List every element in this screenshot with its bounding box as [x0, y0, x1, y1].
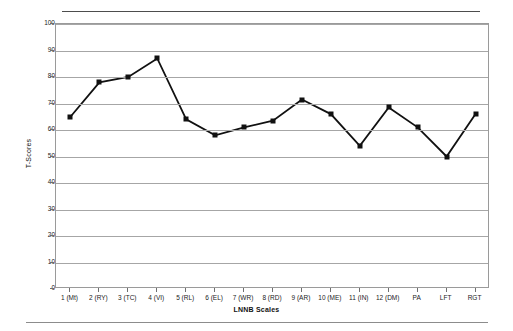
data-point-marker	[126, 75, 131, 80]
x-tick-mark	[446, 288, 447, 292]
data-point-marker	[299, 97, 304, 102]
y-tick-label: 20	[5, 232, 55, 239]
x-tick-mark	[185, 288, 186, 292]
x-tick-label: 5 (RL)	[176, 294, 194, 301]
x-tick-label: 4 (VI)	[148, 294, 164, 301]
x-tick-label: 6 (EL)	[205, 294, 223, 301]
gridline	[56, 236, 488, 237]
y-tick-mark	[50, 288, 54, 289]
x-tick-mark	[127, 288, 128, 292]
bottom-divider	[26, 322, 488, 323]
x-tick-mark	[214, 288, 215, 292]
y-tick-label: 50	[5, 153, 55, 160]
x-tick-label: 12 (DM)	[376, 294, 399, 301]
chart-page: T-Scores 1009080706050403020100 LNNB Sca…	[0, 0, 513, 331]
y-tick-mark	[50, 235, 54, 236]
x-tick-label: 7 (WR)	[233, 294, 254, 301]
data-point-marker	[68, 114, 73, 119]
x-tick-mark	[156, 288, 157, 292]
top-divider	[62, 11, 480, 12]
data-point-marker	[271, 118, 276, 123]
gridline	[56, 263, 488, 264]
y-tick-label: 30	[5, 206, 55, 213]
gridline	[56, 183, 488, 184]
x-tick-mark	[359, 288, 360, 292]
plot-area	[55, 23, 489, 288]
x-tick-mark	[98, 288, 99, 292]
x-tick-mark	[417, 288, 418, 292]
x-tick-label: 10 (ME)	[318, 294, 341, 301]
y-tick-label: 70	[5, 100, 55, 107]
y-tick-mark	[50, 182, 54, 183]
gridline	[56, 51, 488, 52]
series-line	[70, 58, 475, 156]
data-point-marker	[213, 133, 218, 138]
x-tick-mark	[69, 288, 70, 292]
x-tick-mark	[388, 288, 389, 292]
y-tick-mark	[50, 103, 54, 104]
y-tick-label: 60	[5, 126, 55, 133]
y-tick-mark	[50, 209, 54, 210]
x-tick-mark	[243, 288, 244, 292]
x-tick-mark	[301, 288, 302, 292]
y-tick-label: 80	[5, 73, 55, 80]
x-tick-label: 2 (RY)	[89, 294, 108, 301]
y-tick-label: 90	[5, 47, 55, 54]
y-tick-mark	[50, 50, 54, 51]
y-tick-mark	[50, 129, 54, 130]
x-tick-label: LFT	[440, 294, 452, 301]
gridline	[56, 77, 488, 78]
x-tick-mark	[272, 288, 273, 292]
data-point-marker	[184, 117, 189, 122]
x-tick-mark	[330, 288, 331, 292]
gridline	[56, 24, 488, 25]
y-axis: T-Scores 1009080706050403020100	[0, 0, 55, 331]
y-tick-label: 40	[5, 179, 55, 186]
data-point-marker	[242, 125, 247, 130]
x-tick-label: 1 (Mt)	[61, 294, 78, 301]
y-tick-label: 0	[5, 285, 55, 292]
data-point-marker	[97, 80, 102, 85]
y-tick-mark	[50, 262, 54, 263]
x-tick-label: 8 (RD)	[262, 294, 281, 301]
data-point-marker	[473, 112, 478, 117]
x-tick-label: 3 (TC)	[118, 294, 136, 301]
y-tick-label: 100	[5, 20, 55, 27]
x-tick-mark	[475, 288, 476, 292]
gridline	[56, 157, 488, 158]
x-tick-label: 9 (AR)	[292, 294, 311, 301]
x-tick-label: 11 (IN)	[349, 294, 368, 301]
y-tick-mark	[50, 156, 54, 157]
data-point-marker	[357, 143, 362, 148]
data-point-marker	[444, 154, 449, 159]
y-tick-label: 10	[5, 259, 55, 266]
data-point-marker	[415, 125, 420, 130]
data-point-marker	[155, 56, 160, 61]
y-tick-mark	[50, 76, 54, 77]
data-point-marker	[328, 112, 333, 117]
gridline	[56, 130, 488, 131]
y-tick-mark	[50, 23, 54, 24]
gridline	[56, 210, 488, 211]
x-axis-label: LNNB Scales	[0, 306, 513, 313]
gridline	[56, 104, 488, 105]
data-point-marker	[386, 105, 391, 110]
x-tick-label: PA	[413, 294, 421, 301]
x-tick-label: RGT	[468, 294, 482, 301]
